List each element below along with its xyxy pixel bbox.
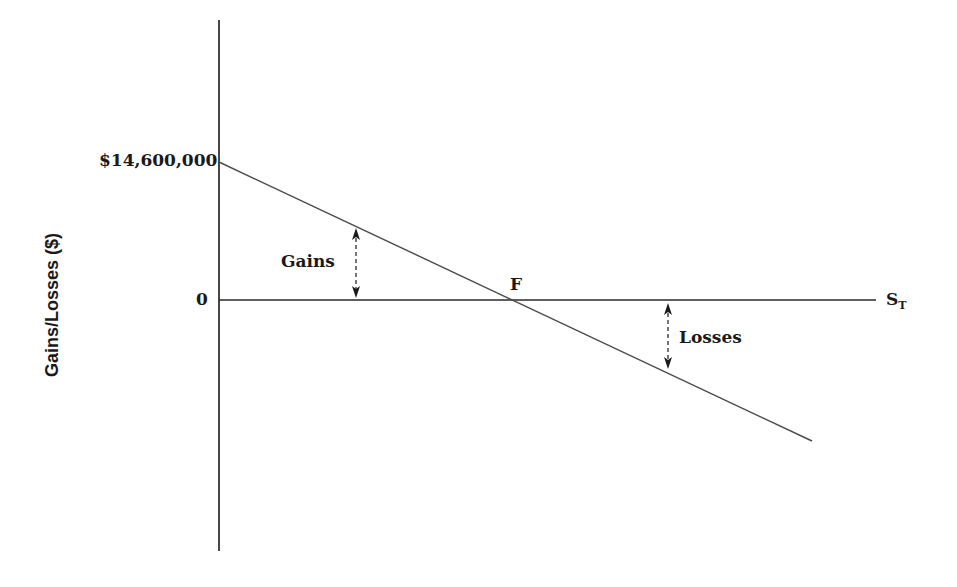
payoff-chart [0,0,957,587]
y-axis-title: Gains/Losses ($) [42,233,63,377]
x-axis-label: ST [886,289,906,312]
x-axis-label-sub: T [898,299,906,312]
gains-arrow-icon [352,228,360,298]
x-axis-label-main: S [886,289,898,309]
crossing-label-f: F [510,274,522,294]
losses-arrow-icon [664,303,672,369]
y-tick-top: $14,600,000 [99,150,217,170]
y-tick-zero: 0 [196,289,208,309]
losses-label: Losses [679,327,742,347]
payoff-line [219,162,812,441]
gains-label: Gains [281,251,335,271]
